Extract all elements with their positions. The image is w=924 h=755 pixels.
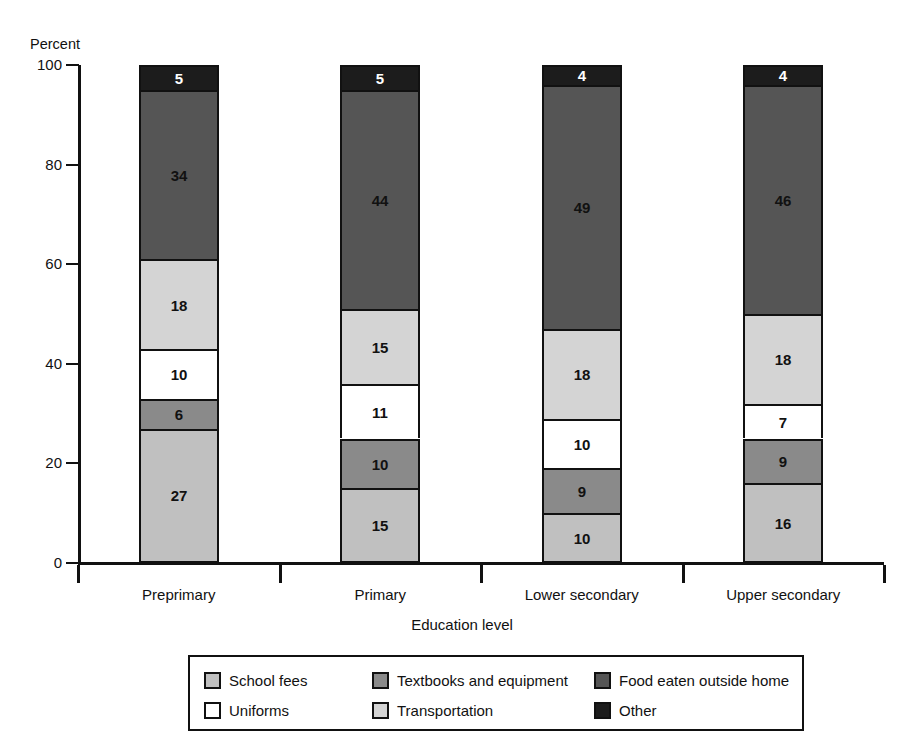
legend-item-transportation[interactable]: Transportation bbox=[372, 702, 594, 719]
category-label-lower-secondary: Lower secondary bbox=[472, 586, 692, 603]
bar-segment[interactable]: 10 bbox=[542, 513, 622, 563]
y-tick-label: 0 bbox=[16, 555, 62, 570]
legend-item-textbooks-and-equipment[interactable]: Textbooks and equipment bbox=[372, 672, 594, 689]
y-axis-line bbox=[78, 65, 81, 564]
category-label-primary: Primary bbox=[270, 586, 490, 603]
legend-swatch-icon bbox=[372, 672, 389, 689]
bar-segment[interactable]: 5 bbox=[139, 65, 219, 90]
bar-preprimary[interactable]: 2761018345 bbox=[139, 65, 219, 563]
category-label-upper-secondary: Upper secondary bbox=[673, 586, 893, 603]
x-tick-mark bbox=[279, 565, 282, 583]
y-tick-mark bbox=[66, 363, 79, 365]
bar-primary[interactable]: 15101115445 bbox=[340, 65, 420, 563]
bar-segment[interactable]: 10 bbox=[542, 419, 622, 469]
legend: School feesTextbooks and equipmentFood e… bbox=[188, 655, 804, 731]
y-tick-label: 80 bbox=[16, 157, 62, 172]
x-axis-label: Education level bbox=[0, 616, 924, 633]
bar-segment[interactable]: 18 bbox=[743, 314, 823, 404]
bar-segment[interactable]: 6 bbox=[139, 399, 219, 429]
stacked-bar-chart-figure: Percent 100806040200 2761018345151011154… bbox=[0, 0, 924, 755]
y-tick-mark bbox=[66, 64, 79, 66]
bar-segment[interactable]: 10 bbox=[340, 439, 420, 489]
y-tick-mark bbox=[66, 462, 79, 464]
bar-segment[interactable]: 4 bbox=[743, 65, 823, 85]
bar-segment[interactable]: 16 bbox=[743, 483, 823, 563]
y-tick-mark bbox=[66, 164, 79, 166]
bar-segment[interactable]: 34 bbox=[139, 90, 219, 259]
y-tick-label-text: 60 bbox=[22, 256, 62, 271]
legend-item-food-eaten-outside-home[interactable]: Food eaten outside home bbox=[594, 672, 794, 689]
legend-item-other[interactable]: Other bbox=[594, 702, 794, 719]
bar-segment[interactable]: 15 bbox=[340, 488, 420, 563]
y-tick-label-text: 80 bbox=[22, 157, 62, 172]
x-tick-mark bbox=[682, 565, 685, 583]
legend-swatch-icon bbox=[594, 672, 611, 689]
legend-item-uniforms[interactable]: Uniforms bbox=[204, 702, 372, 719]
legend-label: Textbooks and equipment bbox=[397, 672, 568, 689]
legend-label: School fees bbox=[229, 672, 307, 689]
category-label-preprimary: Preprimary bbox=[69, 586, 289, 603]
y-tick-label-text: 0 bbox=[22, 555, 62, 570]
bar-segment[interactable]: 11 bbox=[340, 384, 420, 439]
legend-label: Other bbox=[619, 702, 657, 719]
bar-segment[interactable]: 10 bbox=[139, 349, 219, 399]
legend-swatch-icon bbox=[372, 702, 389, 719]
x-tick-mark bbox=[480, 565, 483, 583]
bar-segment[interactable]: 49 bbox=[542, 85, 622, 329]
legend-swatch-icon bbox=[204, 702, 221, 719]
x-tick-mark bbox=[883, 565, 886, 583]
bar-segment[interactable]: 18 bbox=[542, 329, 622, 419]
bar-segment[interactable]: 9 bbox=[743, 439, 823, 484]
y-axis-label: Percent bbox=[30, 36, 80, 52]
bar-segment[interactable]: 4 bbox=[542, 65, 622, 85]
y-tick-mark bbox=[66, 263, 79, 265]
legend-swatch-icon bbox=[594, 702, 611, 719]
y-tick-label: 20 bbox=[16, 455, 62, 470]
legend-item-school-fees[interactable]: School fees bbox=[204, 672, 372, 689]
legend-label: Food eaten outside home bbox=[619, 672, 789, 689]
legend-label: Transportation bbox=[397, 702, 493, 719]
y-tick-label: 40 bbox=[16, 356, 62, 371]
y-tick-label: 60 bbox=[16, 256, 62, 271]
legend-swatch-icon bbox=[204, 672, 221, 689]
legend-label: Uniforms bbox=[229, 702, 289, 719]
bar-segment[interactable]: 18 bbox=[139, 259, 219, 349]
bar-segment[interactable]: 15 bbox=[340, 309, 420, 384]
x-tick-mark bbox=[77, 565, 80, 583]
bar-segment[interactable]: 44 bbox=[340, 90, 420, 309]
y-tick-label-text: 20 bbox=[22, 455, 62, 470]
y-tick-label-text: 100 bbox=[22, 57, 62, 72]
y-tick-label-text: 40 bbox=[22, 356, 62, 371]
bar-segment[interactable]: 46 bbox=[743, 85, 823, 314]
bar-segment[interactable]: 27 bbox=[139, 429, 219, 563]
bar-lower-secondary[interactable]: 1091018494 bbox=[542, 65, 622, 563]
y-tick-mark bbox=[66, 562, 79, 564]
bar-segment[interactable]: 9 bbox=[542, 468, 622, 513]
bar-segment[interactable]: 5 bbox=[340, 65, 420, 90]
y-tick-label: 100 bbox=[16, 57, 62, 72]
bar-segment[interactable]: 7 bbox=[743, 404, 823, 439]
bar-upper-secondary[interactable]: 169718464 bbox=[743, 65, 823, 563]
